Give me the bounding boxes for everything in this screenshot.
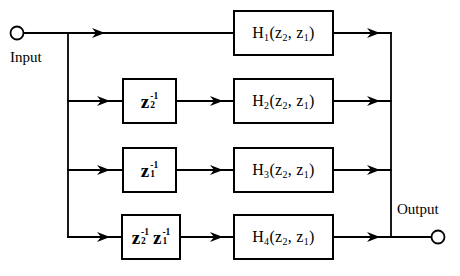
delay-label: z-11 (141, 161, 158, 180)
wiring-layer (0, 0, 460, 276)
delay-index: 1 (162, 237, 167, 246)
delay-term: z-11 (153, 228, 170, 247)
filter-box-h1: H1(z2, z1) (233, 10, 334, 56)
delay-box-z2: z-12 (122, 78, 177, 124)
filter-fn-sub: 3 (264, 169, 269, 180)
input-label: Input (10, 49, 42, 66)
delay-scripts: -12 (150, 92, 158, 110)
filter-arg-sub: 2 (282, 100, 287, 111)
delay-box-z1: z-11 (122, 147, 177, 193)
input-terminal (11, 27, 24, 40)
delay-index: 1 (150, 170, 155, 179)
filter-arg: , z (288, 92, 304, 109)
filter-fn: H (252, 24, 264, 41)
filter-arg: (z (269, 228, 282, 245)
filter-label: H2(z2, z1) (252, 92, 314, 110)
filter-arg: , z (288, 228, 304, 245)
filter-arg: ) (309, 24, 315, 41)
filter-arg-sub: 1 (304, 236, 309, 247)
filter-box-h2: H2(z2, z1) (233, 78, 334, 124)
filter-arg: (z (269, 161, 282, 178)
filter-arg: ) (309, 228, 315, 245)
filter-arg: ) (309, 161, 315, 178)
delay-scripts: -11 (162, 228, 170, 246)
filter-box-h4: H4(z2, z1) (233, 214, 334, 260)
block-diagram: Input Output z-12 z-11 z-12z-11 H1(z2, z… (0, 0, 460, 276)
filter-label: H1(z2, z1) (252, 24, 314, 42)
output-terminal (432, 231, 445, 244)
delay-box-z2z1: z-12z-11 (121, 214, 181, 260)
filter-label: H3(z2, z1) (252, 161, 314, 179)
delay-base: z (132, 228, 140, 247)
filter-arg: (z (269, 92, 282, 109)
filter-arg-sub: 2 (282, 236, 287, 247)
delay-label: z-12 (141, 92, 158, 111)
filter-arg: ) (309, 92, 315, 109)
filter-fn-sub: 2 (264, 100, 269, 111)
delay-base: z (141, 92, 149, 111)
filter-arg: (z (269, 24, 282, 41)
delay-index: 2 (141, 237, 146, 246)
filter-fn: H (252, 228, 264, 245)
delay-label: z-12z-11 (132, 228, 171, 247)
filter-arg-sub: 2 (282, 169, 287, 180)
filter-fn: H (252, 161, 264, 178)
filter-arg: , z (288, 161, 304, 178)
delay-term: z-11 (141, 161, 158, 180)
delay-term: z-12 (141, 92, 158, 111)
delay-index: 2 (150, 101, 155, 110)
filter-arg: , z (288, 24, 304, 41)
filter-fn-sub: 1 (264, 32, 269, 43)
delay-base: z (153, 228, 161, 247)
delay-scripts: -11 (150, 161, 158, 179)
delay-base: z (141, 161, 149, 180)
filter-box-h3: H3(z2, z1) (233, 147, 334, 193)
filter-arg-sub: 1 (304, 169, 309, 180)
filter-arg-sub: 2 (282, 32, 287, 43)
delay-scripts: -12 (141, 228, 149, 246)
filter-arg-sub: 1 (304, 32, 309, 43)
delay-term: z-12 (132, 228, 149, 247)
output-label: Output (397, 201, 439, 218)
filter-arg-sub: 1 (304, 100, 309, 111)
filter-label: H4(z2, z1) (252, 228, 314, 246)
filter-fn: H (252, 92, 264, 109)
filter-fn-sub: 4 (264, 236, 269, 247)
